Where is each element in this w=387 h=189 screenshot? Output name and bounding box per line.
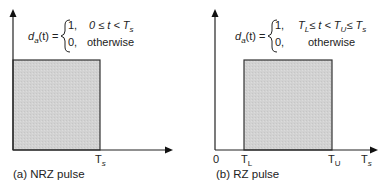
- panel-a-nrz: da(t) = 1, 0 ≤ t < Ts 0, otherwise Ts (a…: [10, 9, 174, 180]
- case2-a: 0, otherwise: [68, 36, 134, 48]
- equation-b: da(t) =: [235, 30, 265, 45]
- case2-b: 0, otherwise: [275, 36, 355, 48]
- x-label-ts-a: Ts: [95, 153, 106, 168]
- equation-a: da(t) =: [28, 30, 58, 45]
- y-axis-arrow-icon: [10, 9, 17, 17]
- panel-b-rz: da(t) = 1, TL≤ t < TU≤ Ts 0, otherwise 0…: [212, 9, 379, 180]
- x-label-tl: TL: [241, 153, 253, 168]
- caption-b: (b) RZ pulse: [216, 168, 279, 180]
- x-axis-arrow-icon: [370, 147, 378, 154]
- x-axis-arrow-icon: [165, 147, 173, 154]
- x-label-tu: TU: [328, 153, 341, 168]
- nrz-pulse-rect: [13, 60, 100, 150]
- x-label-ts-b: Ts: [361, 153, 372, 168]
- caption-a: (a) NRZ pulse: [13, 168, 85, 180]
- x-label-zero: 0: [213, 153, 219, 165]
- case1-b: 1, TL≤ t < TU≤ Ts: [275, 19, 366, 34]
- y-axis-arrow-icon: [212, 9, 219, 17]
- case1-a: 1, 0 ≤ t < Ts: [68, 19, 134, 34]
- rz-pulse-rect: [244, 60, 332, 150]
- pulse-diagram: da(t) = 1, 0 ≤ t < Ts 0, otherwise Ts (a…: [0, 0, 387, 189]
